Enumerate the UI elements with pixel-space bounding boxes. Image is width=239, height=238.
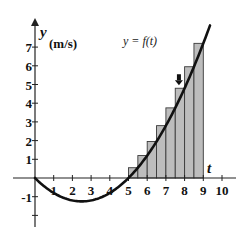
x-tick-label: 3 bbox=[88, 183, 95, 198]
function-label: y = f(t) bbox=[122, 34, 157, 48]
y-axis-units: (m/s) bbox=[49, 36, 77, 51]
y-tick-label: 4 bbox=[26, 96, 33, 111]
riemann-rectangle bbox=[175, 88, 184, 178]
rectangles-group bbox=[129, 43, 204, 178]
y-tick-label: 5 bbox=[26, 78, 33, 93]
x-tick-label: 10 bbox=[216, 183, 229, 198]
y-axis-arrow-icon bbox=[31, 18, 39, 26]
x-tick-label: 5 bbox=[125, 183, 132, 198]
y-tick-label: 6 bbox=[26, 59, 33, 74]
x-tick-label: 9 bbox=[200, 183, 207, 198]
x-axis-label: t bbox=[207, 160, 212, 176]
annotation-arrow-icon bbox=[175, 74, 183, 85]
arrow-head bbox=[175, 80, 183, 85]
y-tick-label: 7 bbox=[26, 40, 33, 55]
x-tick-label: 8 bbox=[181, 183, 188, 198]
arrow-shaft bbox=[177, 74, 181, 80]
riemann-sum-chart: 12345678910-11234567 y (m/s) y = f(t) t bbox=[0, 0, 239, 238]
x-tick-label: 6 bbox=[144, 183, 151, 198]
y-tick-label: 2 bbox=[26, 134, 33, 149]
y-tick-label: 3 bbox=[26, 115, 33, 130]
y-axis-label: y bbox=[38, 24, 47, 40]
y-tick-label: -1 bbox=[21, 190, 32, 205]
x-tick-label: 7 bbox=[163, 183, 170, 198]
plot-area: 12345678910-11234567 y (m/s) y = f(t) t bbox=[0, 0, 239, 238]
x-tick-label: 2 bbox=[69, 183, 76, 198]
y-tick-label: 1 bbox=[26, 152, 33, 167]
